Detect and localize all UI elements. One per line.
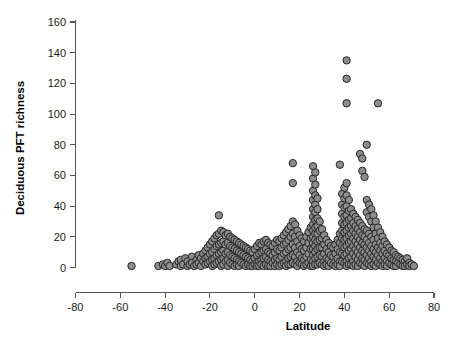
x-tick-label: -40 — [157, 301, 173, 313]
data-point — [314, 205, 321, 212]
x-tick-label: 40 — [338, 301, 350, 313]
y-axis-tick-labels: 020406080100120140160 — [48, 16, 66, 274]
x-tick-label: -60 — [112, 301, 128, 313]
data-point — [343, 179, 350, 186]
data-point — [374, 100, 381, 107]
data-point — [289, 159, 296, 166]
data-point — [166, 262, 173, 269]
plot-canvas: 020406080100120140160 -80-60-40-20020406… — [0, 0, 458, 349]
x-axis-tick-marks — [76, 293, 435, 299]
data-point — [312, 181, 319, 188]
x-axis-tick-labels: -80-60-40-20020406080 — [68, 301, 441, 313]
scatter-plot-figure: 020406080100120140160 -80-60-40-20020406… — [0, 0, 458, 349]
y-tick-label: 40 — [54, 200, 66, 212]
data-point — [343, 57, 350, 64]
data-point — [128, 262, 135, 269]
y-tick-label: 140 — [48, 47, 66, 59]
x-tick-label: 80 — [428, 301, 440, 313]
data-point — [343, 75, 350, 82]
x-tick-label: -80 — [68, 301, 84, 313]
y-tick-label: 120 — [48, 77, 66, 89]
data-point — [361, 173, 368, 180]
data-point — [359, 155, 366, 162]
data-point — [410, 262, 417, 269]
y-tick-label: 80 — [54, 139, 66, 151]
x-axis-title: Latitude — [286, 320, 331, 332]
x-tick-label: 60 — [383, 301, 395, 313]
data-point — [215, 212, 222, 219]
x-tick-label: -20 — [202, 301, 218, 313]
y-axis-tick-marks — [70, 22, 76, 268]
data-point — [289, 179, 296, 186]
data-point — [336, 161, 343, 168]
data-point — [314, 195, 321, 202]
data-point — [343, 100, 350, 107]
y-tick-label: 60 — [54, 169, 66, 181]
y-axis-title: Deciduous PFT richness — [14, 81, 26, 215]
y-tick-label: 160 — [48, 16, 66, 28]
y-tick-label: 0 — [60, 262, 66, 274]
data-point — [312, 169, 319, 176]
x-tick-label: 20 — [293, 301, 305, 313]
x-tick-label: 0 — [252, 301, 258, 313]
data-points-layer — [128, 57, 418, 270]
data-point — [345, 196, 352, 203]
y-tick-label: 20 — [54, 231, 66, 243]
y-tick-label: 100 — [48, 108, 66, 120]
data-point — [363, 141, 370, 148]
data-point — [316, 218, 323, 225]
